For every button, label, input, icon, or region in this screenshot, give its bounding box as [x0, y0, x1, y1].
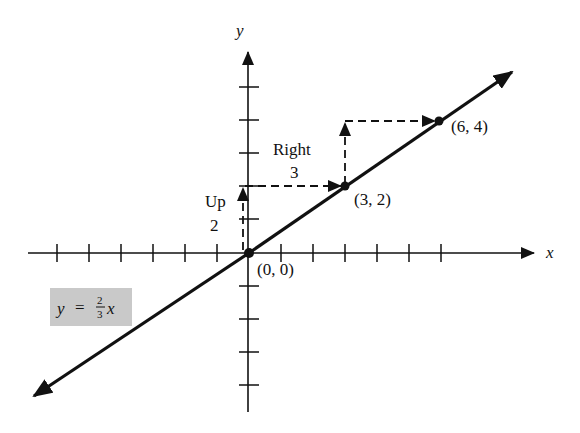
graph-figure: x y: [0, 0, 580, 433]
y-axis-ticks: [239, 87, 259, 385]
right-label: Right: [273, 140, 311, 159]
slope-steps: [243, 121, 435, 250]
up-amount-label: 2: [210, 216, 219, 235]
y-axis: y: [234, 21, 259, 412]
y-axis-label: y: [234, 21, 244, 40]
origin-label: (0, 0): [257, 260, 294, 279]
equation-numerator: 2: [97, 294, 103, 306]
right-amount-label: 3: [290, 163, 299, 182]
point-3-2-label: (3, 2): [354, 190, 391, 209]
equation-variable: x: [106, 299, 115, 318]
point-origin: [244, 248, 254, 258]
line-y-equals-two-thirds-x: [249, 72, 512, 253]
equation-label: y = 2 3 x: [50, 288, 132, 326]
point-3-2: [341, 182, 350, 191]
point-6-4-label: (6, 4): [451, 117, 488, 136]
x-axis-label: x: [545, 243, 554, 262]
equation-equals: =: [75, 298, 85, 317]
coordinate-plane: x y: [0, 0, 580, 433]
point-6-4: [435, 117, 444, 126]
equation-lhs: y: [55, 299, 65, 318]
equation-denominator: 3: [97, 308, 103, 320]
up-label: Up: [205, 192, 226, 211]
